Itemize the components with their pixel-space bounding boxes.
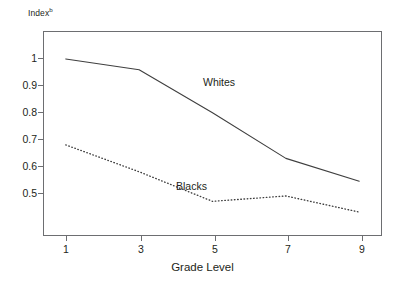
series-label-blacks: Blacks — [176, 180, 207, 192]
chart-figure: Indexb 1 0.9 0.8 0.7 0.6 0.5 1 3 5 7 9 W… — [0, 0, 405, 290]
x-axis-title: Grade Level — [0, 261, 405, 273]
series-lines-layer — [0, 0, 405, 290]
series-label-whites: Whites — [203, 76, 235, 88]
series-line-blacks — [66, 145, 360, 212]
